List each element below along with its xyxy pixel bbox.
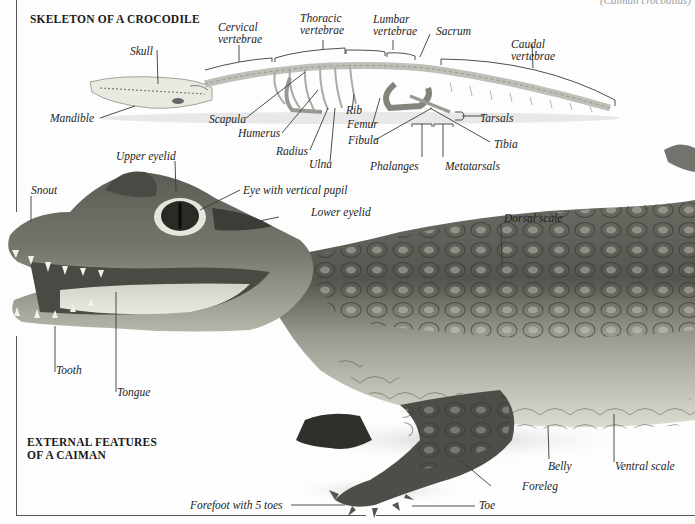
label-femur: Femur (347, 118, 378, 130)
label-mandible: Mandible (50, 112, 94, 124)
label-tibia: Tibia (494, 138, 518, 150)
label-skull: Skull (130, 45, 153, 57)
label-sacrum: Sacrum (436, 25, 471, 37)
label-lumbar-line2: vertebrae (373, 25, 417, 37)
label-thoracic-line2: vertebrae (300, 24, 344, 36)
label-fibula: Fibula (348, 134, 379, 146)
label-tooth: Tooth (56, 364, 82, 376)
label-lower-eyelid: Lower eyelid (311, 206, 371, 218)
caiman-heading-line2: OF A CAIMAN (27, 449, 106, 462)
caiman-heading-line1: EXTERNAL FEATURES (27, 436, 157, 449)
label-radius: Radius (276, 145, 308, 157)
label-caudal-line1: Caudal (511, 38, 545, 50)
label-caudal-line2: vertebrae (511, 50, 555, 62)
label-snout: Snout (31, 184, 57, 196)
label-upper-eyelid: Upper eyelid (116, 150, 176, 162)
label-thoracic-line1: Thoracic (300, 12, 342, 24)
label-foreleg: Foreleg (522, 480, 558, 492)
partial-animal-right (664, 144, 695, 172)
label-lumbar-line1: Lumbar (373, 13, 409, 25)
label-scapula: Scapula (209, 113, 246, 125)
label-cervical-line1: Cervical (218, 21, 258, 33)
label-phalanges: Phalanges (370, 160, 419, 172)
label-tarsals: Tarsals (480, 112, 513, 124)
label-toe: Toe (479, 499, 495, 511)
label-rib: Rib (346, 104, 362, 116)
caiman-photo (8, 171, 695, 518)
label-tongue: Tongue (117, 386, 150, 398)
label-humerus: Humerus (238, 127, 280, 139)
label-ulna: Ulna (309, 158, 332, 170)
label-eye-vertical-pupil: Eye with vertical pupil (243, 184, 347, 196)
label-forefoot: Forefoot with 5 toes (190, 499, 283, 511)
label-metatarsals: Metatarsals (445, 160, 500, 172)
skeleton-heading: SKELETON OF A CROCODILE (30, 13, 200, 26)
label-cervical-line2: vertebrae (218, 33, 262, 45)
label-ventral-scale: Ventral scale (615, 460, 675, 472)
label-belly: Belly (548, 460, 572, 472)
encyclopedia-page: (Caiman crocodilus) (0, 0, 695, 524)
label-dorsal-scale: Dorsal scale (504, 212, 562, 224)
